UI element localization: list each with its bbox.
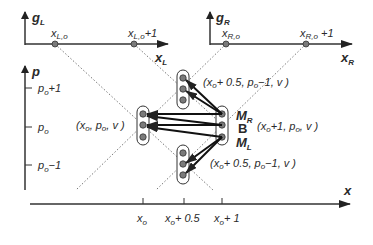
node-left-top	[140, 111, 146, 117]
B-label: B	[238, 121, 247, 136]
lower-node-label: (xo+ 0.5, po−1, v )	[210, 157, 296, 171]
node-group-lower	[177, 145, 189, 184]
node-left-bottom	[140, 134, 146, 140]
right-node-label: (xo+1, po, v )	[257, 120, 319, 134]
xRo-label: xR,o	[221, 27, 241, 41]
gL-axes: gL xL xL,o xL,o+1	[25, 10, 168, 67]
p-tick-label-po-minus1: po−1	[37, 159, 61, 174]
p-label: p	[31, 64, 40, 79]
arrow-MR-to-upper-mid	[186, 91, 222, 114]
node-lower-mid	[180, 161, 186, 167]
node-lower-top	[180, 150, 186, 156]
xLo-plus1-point	[131, 41, 137, 47]
phase-space-diagram: gL xL xL,o xL,o+1 gR xR xR,o xR,o +1	[0, 0, 373, 245]
xRo-plus1-point	[303, 41, 309, 47]
gL-label: gL	[31, 10, 45, 27]
xRo-point	[223, 41, 229, 47]
x-label: x	[343, 183, 352, 198]
gR-label: gR	[215, 10, 230, 27]
xLo-plus1-label: xL,o+1	[127, 27, 157, 41]
gR-axes: gR xR xR,o xR,o +1	[210, 10, 354, 67]
xLo-point	[52, 41, 58, 47]
xL-label: xL	[154, 50, 167, 67]
xLo-label: xL,o	[50, 27, 68, 41]
xRo-plus1-label: xR,o +1	[299, 27, 334, 41]
upper-node-label: (xo+ 0.5, po−1, v )	[203, 76, 289, 90]
node-group-upper	[177, 70, 189, 109]
node-upper-mid	[180, 86, 186, 92]
xR-label: xR	[340, 50, 354, 67]
node-upper-bottom	[180, 97, 186, 103]
node-upper-top	[180, 75, 186, 81]
arrow-ML-to-left-mid	[147, 127, 222, 137]
node-left-mid	[140, 122, 146, 128]
node-lower-bottom	[180, 172, 186, 178]
x-tick-label-xo-plus-half: xo+ 0.5	[164, 212, 201, 227]
p-tick-label-po: po	[37, 121, 49, 136]
arrow-B-to-left-top	[147, 116, 222, 125]
left-node-label: (xo, po, v )	[76, 119, 125, 133]
x-tick-label-xo: xo	[136, 212, 148, 227]
x-tick-label-xo-plus1: xo+ 1	[213, 212, 240, 227]
p-tick-label-po-plus1: po+1	[37, 82, 61, 97]
ML-label: ML	[236, 135, 252, 152]
